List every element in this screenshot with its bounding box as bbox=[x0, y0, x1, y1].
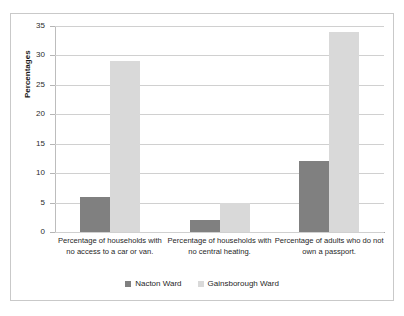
y-axis-tick-label: 20 bbox=[19, 110, 45, 118]
y-axis-tick-label: 0 bbox=[19, 228, 45, 236]
legend-item[interactable]: Gainsborough Ward bbox=[198, 280, 279, 288]
scan-artifact bbox=[0, 0, 404, 10]
gridline bbox=[55, 232, 384, 233]
bar bbox=[190, 220, 220, 232]
y-axis-tick-label: 5 bbox=[19, 199, 45, 207]
x-axis-category-label: Percentage of households with no access … bbox=[55, 236, 165, 257]
legend-label: Nacton Ward bbox=[135, 280, 181, 288]
bar bbox=[299, 161, 329, 232]
bar bbox=[329, 32, 359, 232]
x-axis-category-label: Percentage of households with no central… bbox=[165, 236, 275, 257]
x-axis-category-label: Percentage of adults who do not own a pa… bbox=[274, 236, 384, 257]
bar bbox=[110, 61, 140, 232]
y-axis-tick-label: 35 bbox=[19, 22, 45, 30]
legend-item[interactable]: Nacton Ward bbox=[125, 280, 181, 288]
legend-swatch-icon bbox=[125, 281, 131, 287]
y-axis-tick-label: 10 bbox=[19, 169, 45, 177]
legend-label: Gainsborough Ward bbox=[208, 280, 279, 288]
legend-swatch-icon bbox=[198, 281, 204, 287]
chart-plot-container: Percentages 35302520151050 Percentage of… bbox=[11, 14, 393, 300]
chart-figure-frame: Percentages 35302520151050 Percentage of… bbox=[10, 13, 394, 301]
y-axis-tick-label: 15 bbox=[19, 140, 45, 148]
bar bbox=[220, 203, 250, 232]
bar bbox=[80, 197, 110, 232]
gridline bbox=[55, 26, 384, 27]
y-axis-tick-label: 30 bbox=[19, 51, 45, 59]
bars-plot-area bbox=[55, 26, 384, 232]
y-axis-tick-label: 25 bbox=[19, 81, 45, 89]
x-axis-category-labels: Percentage of households with no access … bbox=[55, 236, 385, 278]
chart-legend: Nacton WardGainsborough Ward bbox=[11, 280, 393, 288]
